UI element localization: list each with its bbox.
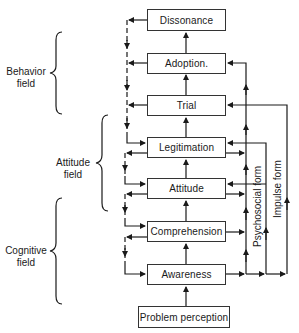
stage-label: Problem perception: [140, 312, 229, 323]
stage-awareness: Awareness: [147, 264, 226, 285]
stage-label: Attitude: [169, 183, 204, 194]
stage-label: Trial: [177, 100, 197, 111]
impulse-form-label: Impulse form: [272, 160, 283, 218]
behavior-field-label: Behaviorfield: [4, 66, 48, 90]
stage-label: Adoption.: [165, 58, 208, 69]
stage-problem-perception: Problem perception: [138, 306, 230, 328]
psychosocial-form-label: Psychosocial form: [252, 166, 263, 247]
stage-label: Legitimation: [159, 142, 214, 153]
stage-dissonance: Dissonance: [147, 9, 226, 31]
stage-trial: Trial: [147, 95, 226, 116]
stage-adoption: Adoption.: [147, 53, 226, 74]
stage-label: Dissonance: [160, 15, 213, 26]
stage-comprehension: Comprehension: [147, 221, 226, 242]
attitude-field-label: Attitudefield: [50, 157, 96, 181]
stage-legitimation: Legitimation: [147, 137, 226, 158]
stage-attitude: Attitude: [147, 178, 226, 199]
cognitive-field-label: Cognitivefield: [2, 245, 50, 269]
stage-label: Comprehension: [151, 226, 223, 237]
stage-label: Awareness: [161, 269, 211, 280]
